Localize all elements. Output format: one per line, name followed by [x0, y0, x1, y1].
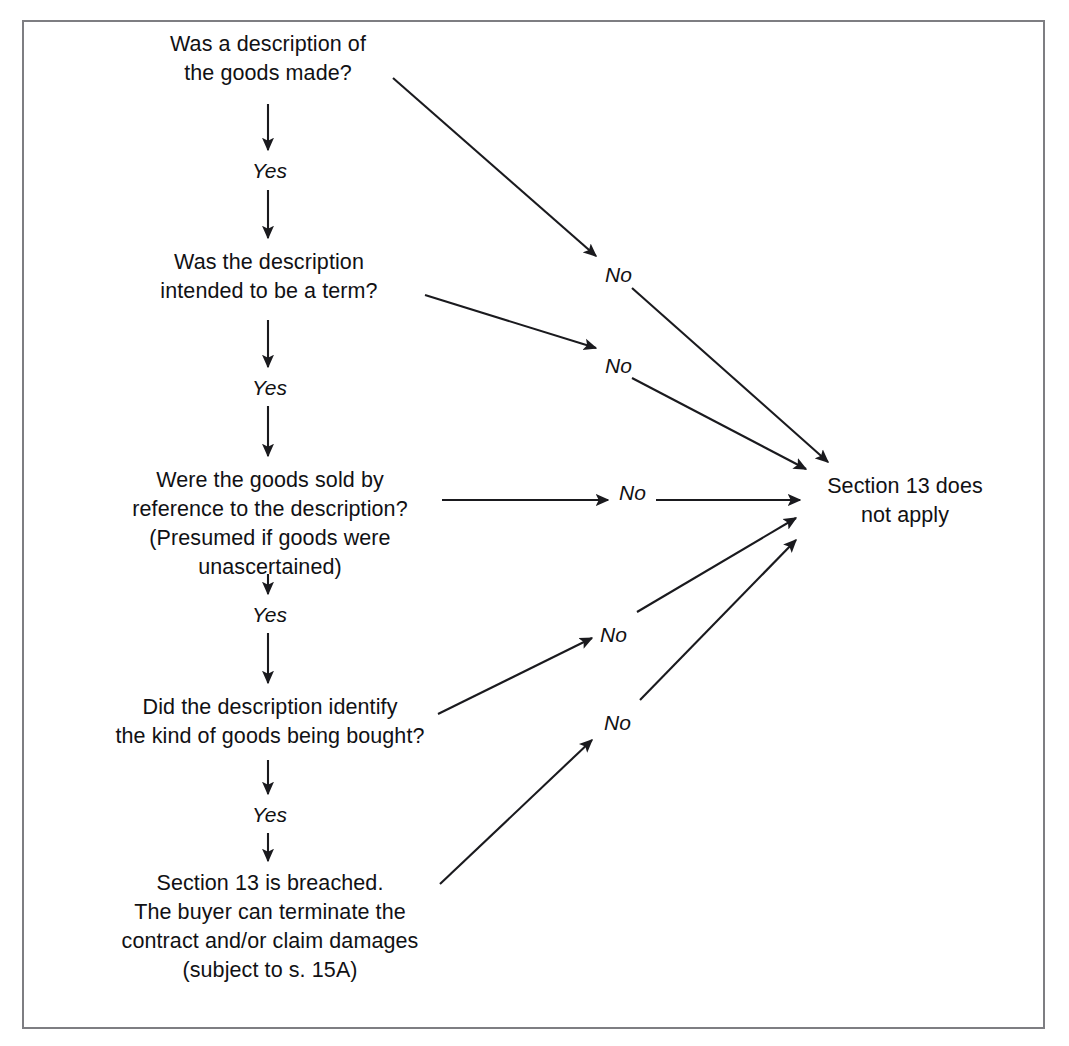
diagram-page: Was a description of the goods made? Was…: [0, 0, 1069, 1046]
edge-label-no-1: No: [605, 264, 632, 285]
question-identify-kind: Did the description identify the kind of…: [96, 693, 444, 751]
edge-label-yes-2: Yes: [252, 377, 287, 398]
edge-label-no-4: No: [600, 624, 627, 645]
edge-label-yes-1: Yes: [252, 160, 287, 181]
question-sold-by-reference: Were the goods sold by reference to the …: [96, 466, 444, 582]
question-description-made: Was a description of the goods made?: [108, 30, 428, 88]
outcome-not-apply: Section 13 does not apply: [790, 472, 1020, 530]
edge-label-yes-4: Yes: [252, 804, 287, 825]
edge-label-no-5: No: [604, 712, 631, 733]
question-description-term: Was the description intended to be a ter…: [104, 248, 434, 306]
edge-label-no-2: No: [605, 355, 632, 376]
edge-label-no-3: No: [619, 482, 646, 503]
edge-label-yes-3: Yes: [252, 604, 287, 625]
outcome-breached: Section 13 is breached. The buyer can te…: [84, 869, 456, 985]
